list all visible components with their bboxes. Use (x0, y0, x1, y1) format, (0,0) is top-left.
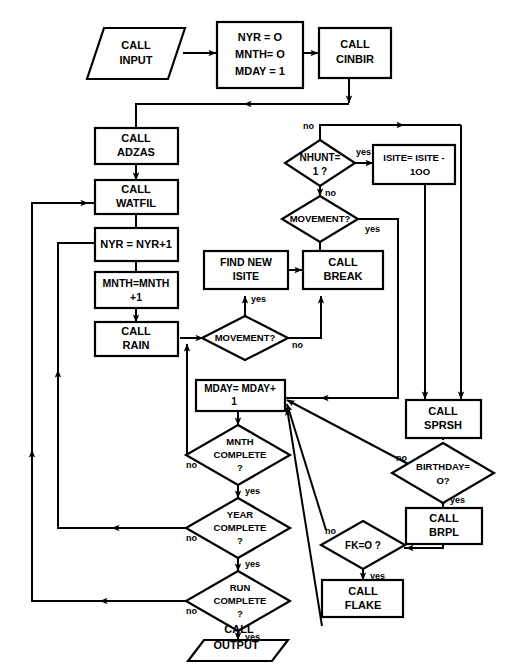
node-movement-top-decision-line-0: MOVEMENT? (290, 213, 351, 224)
node-nyr-increment-line-0: NYR = NYR+1 (100, 238, 172, 250)
node-mnth-complete-decision[interactable]: MNTH COMPLETE ? (186, 425, 290, 485)
label-mnth-yes: yes (245, 486, 260, 496)
node-call-break[interactable]: CALL BREAK (303, 251, 383, 289)
node-init-line-2: MDAY = 1 (235, 65, 285, 77)
node-nhunt-decision-line-0: NHUNT= (300, 152, 341, 163)
label-birthday-no: no (396, 453, 407, 463)
node-movement-mid-decision-line-0: MOVEMENT? (215, 332, 276, 343)
label-fk-no: no (325, 526, 336, 536)
edge-movement-top-yes-path (285, 219, 398, 398)
node-call-watfil[interactable]: CALL WATFIL (95, 180, 178, 214)
node-call-break-line-0: CALL (328, 256, 358, 268)
node-movement-mid-decision[interactable]: MOVEMENT? (202, 316, 288, 360)
label-movement-top-no: no (325, 188, 336, 198)
node-call-input-line-1: INPUT (120, 54, 153, 66)
node-mnth-increment-line-1: +1 (130, 291, 142, 303)
node-year-complete-line-0: YEAR (227, 509, 254, 520)
node-call-flake-line-1: FLAKE (345, 599, 382, 611)
label-nhunt-yes: yes (356, 147, 371, 157)
label-movement-mid-yes: yes (251, 294, 266, 304)
node-call-rain-line-1: RAIN (123, 339, 150, 351)
node-mday-increment-line-0: MDAY= MDAY+ (204, 383, 276, 394)
node-fk-line-0: FK=O ? (345, 540, 381, 551)
edge-movement-mid-no (287, 296, 321, 338)
label-year-yes: yes (245, 559, 260, 569)
node-birthday-line-1: O? (436, 475, 449, 486)
node-call-brpl[interactable]: CALL BRPL (406, 508, 482, 544)
node-call-cinbir[interactable]: CALL CINBIR (319, 28, 391, 78)
label-nhunt-no: no (303, 121, 314, 131)
node-call-sprsh-line-1: SPRSH (424, 419, 462, 431)
node-mday-increment-line-1: 1 (231, 396, 237, 407)
node-call-brpl-line-0: CALL (429, 512, 459, 524)
node-find-new-isite-line-1: ISITE (233, 270, 259, 282)
node-birthday-line-0: BIRTHDAY= (416, 461, 470, 472)
node-year-complete-line-2: ? (237, 535, 243, 546)
node-call-sprsh[interactable]: CALL SPRSH (406, 400, 481, 438)
edge-cinbir-to-adzas-path (136, 104, 349, 128)
label-run-no: no (186, 606, 197, 616)
label-birthday-yes: yes (450, 495, 465, 505)
node-call-adzas[interactable]: CALL ADZAS (95, 128, 178, 164)
node-call-flake[interactable]: CALL FLAKE (322, 580, 403, 617)
node-nhunt-decision[interactable]: NHUNT= 1 ? (285, 140, 355, 186)
node-call-break-line-1: BREAK (323, 270, 362, 282)
node-mday-increment[interactable]: MDAY= MDAY+ 1 (196, 380, 285, 411)
node-movement-top-decision[interactable]: MOVEMENT? (282, 196, 358, 242)
node-call-cinbir-line-0: CALL (340, 38, 370, 50)
node-run-complete-line-2: ? (237, 608, 243, 619)
node-find-new-isite[interactable]: FIND NEW ISITE (204, 251, 288, 289)
edge-flake-diagonal (287, 408, 322, 626)
node-call-input[interactable]: CALL INPUT (87, 28, 185, 79)
node-year-complete-decision[interactable]: YEAR COMPLETE ? (186, 498, 290, 558)
node-call-cinbir-line-1: CINBIR (336, 53, 374, 65)
node-call-adzas-line-1: ADZAS (117, 146, 155, 158)
node-year-complete-line-1: COMPLETE (214, 522, 267, 533)
label-movement-top-yes: yes (365, 224, 380, 234)
node-isite-update[interactable]: ISITE= ISITE - 1OO (373, 145, 455, 184)
node-call-brpl-line-1: BRPL (429, 526, 459, 538)
flowchart-canvas: CALL INPUT NYR = O MNTH= O MDAY = 1 CALL… (0, 0, 516, 667)
node-call-watfil-line-0: CALL (121, 183, 151, 195)
node-call-adzas-line-0: CALL (121, 132, 151, 144)
node-run-complete-line-0: RUN (230, 582, 251, 593)
node-init[interactable]: NYR = O MNTH= O MDAY = 1 (217, 22, 303, 88)
node-call-sprsh-line-0: CALL (428, 405, 458, 417)
node-isite-update-line-0: ISITE= ISITE - (383, 152, 445, 163)
node-nhunt-decision-line-1: 1 ? (313, 166, 327, 177)
node-call-rain[interactable]: CALL RAIN (95, 322, 178, 356)
node-init-line-0: NYR = O (238, 31, 283, 43)
node-nyr-increment[interactable]: NYR = NYR+1 (95, 228, 178, 261)
node-run-complete-line-1: COMPLETE (214, 595, 267, 606)
node-call-watfil-line-1: WATFIL (116, 197, 156, 209)
node-find-new-isite-line-0: FIND NEW (220, 256, 272, 268)
node-mnth-complete-line-0: MNTH (226, 436, 254, 447)
label-fk-yes: yes (370, 571, 385, 581)
node-birthday-decision[interactable]: BIRTHDAY= O? (392, 443, 494, 503)
node-call-flake-line-0: CALL (348, 585, 378, 597)
node-mnth-complete-line-2: ? (237, 462, 243, 473)
node-isite-update-line-1: 1OO (410, 166, 430, 177)
edge-birthday-no-diagonal (287, 400, 412, 466)
flowchart-svg: CALL INPUT NYR = O MNTH= O MDAY = 1 CALL… (0, 0, 516, 667)
node-mnth-increment-line-0: MNTH=MNTH (103, 277, 170, 289)
node-mnth-increment[interactable]: MNTH=MNTH +1 (95, 272, 178, 308)
node-call-output[interactable]: CALL OUTPUT (188, 623, 288, 661)
node-mnth-complete-line-1: COMPLETE (214, 449, 267, 460)
label-run-yes: yes (245, 632, 260, 642)
node-init-line-1: MNTH= O (235, 48, 285, 60)
node-call-rain-line-0: CALL (121, 325, 151, 337)
label-mnth-no: no (186, 460, 197, 470)
label-movement-mid-no: no (292, 340, 303, 350)
label-year-no: no (186, 533, 197, 543)
node-call-input-line-0: CALL (121, 39, 151, 51)
edge-fk-no-diagonal (287, 404, 326, 530)
